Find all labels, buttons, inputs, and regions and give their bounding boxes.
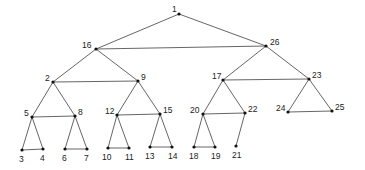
node-8 — [73, 114, 76, 117]
node-10 — [106, 146, 109, 149]
node-22 — [243, 111, 246, 114]
edge-16-9 — [96, 49, 138, 81]
edge-22-21 — [236, 113, 245, 146]
edge-26-17 — [223, 46, 266, 80]
edge-23-24 — [288, 79, 309, 112]
node-label-10: 10 — [102, 152, 112, 162]
node-label-20: 20 — [190, 105, 200, 115]
node-7 — [85, 147, 88, 150]
edge-17-20 — [203, 80, 223, 114]
node-label-23: 23 — [312, 70, 322, 80]
node-label-6: 6 — [62, 153, 67, 163]
edge-20-19 — [203, 114, 215, 147]
node-17 — [221, 78, 224, 81]
edge-16-26 — [96, 46, 266, 49]
edge-1-16 — [96, 14, 179, 49]
node-23 — [307, 77, 310, 80]
node-label-18: 18 — [189, 151, 199, 161]
node-20 — [201, 112, 204, 115]
node-4 — [41, 147, 44, 150]
node-5 — [30, 115, 33, 118]
edge-5-8 — [32, 116, 75, 117]
node-label-4: 4 — [40, 153, 45, 163]
tree-diagram: 1162629172358121520222425346710111314181… — [0, 0, 365, 170]
node-label-5: 5 — [24, 108, 29, 118]
node-label-7: 7 — [84, 153, 89, 163]
node-label-8: 8 — [78, 107, 83, 117]
node-label-17: 17 — [212, 71, 222, 81]
node-16 — [94, 47, 97, 50]
node-label-24: 24 — [276, 103, 286, 113]
edge-2-9 — [53, 81, 138, 82]
edge-12-10 — [108, 115, 117, 148]
node-25 — [330, 109, 333, 112]
edge-17-23 — [223, 79, 309, 80]
node-26 — [264, 44, 267, 47]
node-label-2: 2 — [45, 73, 50, 83]
edge-20-18 — [194, 114, 203, 147]
edge-layer — [22, 14, 332, 150]
node-9 — [136, 79, 139, 82]
node-3 — [20, 148, 23, 151]
node-label-14: 14 — [168, 151, 178, 161]
node-label-12: 12 — [105, 106, 115, 116]
node-12 — [115, 113, 118, 116]
edge-15-14 — [160, 114, 172, 147]
node-label-22: 22 — [248, 104, 258, 114]
edge-12-15 — [117, 114, 160, 115]
edge-9-15 — [138, 81, 160, 114]
edge-15-13 — [150, 114, 160, 147]
node-13 — [148, 145, 151, 148]
node-1 — [177, 12, 180, 15]
node-6 — [63, 147, 66, 150]
edge-17-22 — [223, 80, 245, 113]
node-label-25: 25 — [335, 102, 345, 112]
edge-8-6 — [65, 116, 75, 149]
node-11 — [127, 146, 130, 149]
edge-3-4 — [22, 149, 43, 150]
node-18 — [192, 145, 195, 148]
node-label-11: 11 — [125, 152, 134, 162]
node-label-9: 9 — [141, 72, 146, 82]
edge-8-7 — [75, 116, 87, 149]
edge-2-5 — [32, 82, 53, 117]
edge-1-26 — [179, 14, 266, 46]
edge-5-4 — [32, 117, 43, 149]
edge-5-3 — [22, 117, 32, 150]
edge-26-23 — [266, 46, 309, 79]
edge-23-25 — [309, 79, 332, 111]
node-label-21: 21 — [232, 150, 242, 160]
node-label-16: 16 — [82, 40, 92, 50]
node-19 — [213, 145, 216, 148]
edge-24-25 — [288, 111, 332, 112]
node-label-13: 13 — [145, 151, 155, 161]
node-label-26: 26 — [270, 37, 280, 47]
node-label-19: 19 — [211, 151, 221, 161]
edge-12-11 — [117, 115, 129, 148]
edge-16-2 — [53, 49, 96, 82]
node-label-15: 15 — [163, 105, 173, 115]
node-15 — [158, 112, 161, 115]
node-14 — [170, 145, 173, 148]
edge-20-22 — [203, 113, 245, 114]
node-2 — [51, 80, 54, 83]
node-label-1: 1 — [172, 4, 177, 14]
edge-2-8 — [53, 82, 75, 116]
node-label-3: 3 — [19, 154, 24, 164]
edge-9-12 — [117, 81, 138, 115]
node-24 — [286, 110, 289, 113]
node-21 — [234, 144, 237, 147]
